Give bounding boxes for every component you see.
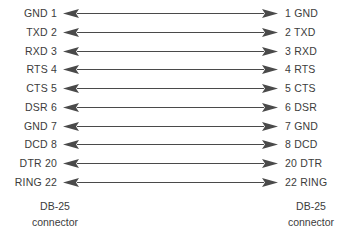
right-pin-label: 2 TXD xyxy=(285,23,339,42)
connection-arrow xyxy=(62,154,279,173)
left-pin-label: DTR 20 xyxy=(0,154,57,173)
left-pin-label: RTS 4 xyxy=(0,60,57,79)
left-pin-label: RXD 3 xyxy=(0,42,57,61)
pin-row: TXD 22 TXD xyxy=(0,23,339,42)
connection-arrow xyxy=(62,4,279,23)
connection-arrow xyxy=(62,60,279,79)
right-pin-label: 6 DSR xyxy=(285,98,339,117)
right-pin-label: 7 GND xyxy=(285,117,339,136)
right-pin-label: 8 DCD xyxy=(285,135,339,154)
left-connector-type: DB-25 xyxy=(5,198,105,214)
connection-arrow xyxy=(62,42,279,61)
right-pin-label: 22 RING xyxy=(285,173,339,192)
right-connector-type: DB-25 xyxy=(261,198,339,214)
right-connector-word: connector xyxy=(261,214,339,230)
left-connector-word: connector xyxy=(5,214,105,230)
left-pin-label: CTS 5 xyxy=(0,79,57,98)
right-pin-label: 3 RXD xyxy=(285,42,339,61)
pin-row: GND 77 GND xyxy=(0,117,339,136)
left-pin-label: GND 1 xyxy=(0,4,57,23)
pin-row: RXD 33 RXD xyxy=(0,42,339,61)
left-pin-label: DCD 8 xyxy=(0,135,57,154)
right-pin-label: 20 DTR xyxy=(285,154,339,173)
right-pin-label: 1 GND xyxy=(285,4,339,23)
left-pin-label: RING 22 xyxy=(0,173,57,192)
pinout-diagram: GND 11 GNDTXD 22 TXDRXD 33 RXDRTS 44 RTS… xyxy=(0,0,339,243)
right-pin-label: 4 RTS xyxy=(285,60,339,79)
pin-row: RING 2222 RING xyxy=(0,173,339,192)
left-pin-label: DSR 6 xyxy=(0,98,57,117)
pin-row: DTR 2020 DTR xyxy=(0,154,339,173)
left-pin-label: GND 7 xyxy=(0,117,57,136)
pin-row: GND 11 GND xyxy=(0,4,339,23)
right-connector-caption: DB-25 connector xyxy=(261,198,339,230)
connection-arrow xyxy=(62,23,279,42)
pin-row: RTS 44 RTS xyxy=(0,60,339,79)
connection-arrow xyxy=(62,79,279,98)
left-connector-caption: DB-25 connector xyxy=(5,198,105,230)
pin-row: DSR 66 DSR xyxy=(0,98,339,117)
pin-row: CTS 55 CTS xyxy=(0,79,339,98)
connection-arrow xyxy=(62,135,279,154)
connection-arrow xyxy=(62,117,279,136)
left-pin-label: TXD 2 xyxy=(0,23,57,42)
pin-row: DCD 88 DCD xyxy=(0,135,339,154)
connection-arrow xyxy=(62,98,279,117)
connection-arrow xyxy=(62,173,279,192)
right-pin-label: 5 CTS xyxy=(285,79,339,98)
